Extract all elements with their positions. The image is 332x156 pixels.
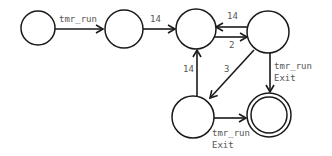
state-diagram: tmr_run 14 14 2 14 3 tmr_run Exit tmr_ru… [0,0,332,156]
state-s4 [247,11,289,53]
transition-s4-s5: 3 [210,50,254,98]
transition-s3-s4: 2 [215,37,247,50]
transition-s4-s3: 14 [216,11,248,27]
transition-label: tmr_run [59,14,97,24]
transition-label: 3 [224,64,229,74]
state-s2 [105,10,143,48]
transition-s4-s6: tmr_run Exit [270,53,312,92]
transition-s5-s6: tmr_run Exit [212,118,250,150]
state-s1 [21,11,55,45]
state-s5 [172,96,214,138]
transition-label-line1: tmr_run [274,61,312,71]
transition-label-line2: Exit [212,140,234,150]
state-s3 [176,9,216,49]
state-s6-accepting [247,93,291,137]
transition-label: 14 [183,64,194,74]
transition-label: 2 [229,40,234,50]
transition-s5-s3: 14 [183,50,197,96]
transition-label: 14 [227,11,238,21]
transition-label-line2: Exit [274,73,296,83]
transition-s2-s3: 14 [143,14,175,29]
transition-s1-s2: tmr_run [55,14,103,29]
transition-label-line1: tmr_run [212,128,250,138]
transition-label: 14 [150,14,161,24]
